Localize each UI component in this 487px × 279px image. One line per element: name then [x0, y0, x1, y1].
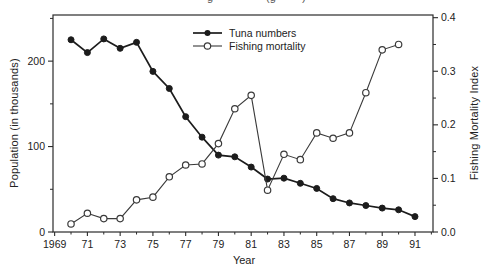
- x-tick-label: 91: [409, 238, 421, 250]
- fishing-point: [101, 215, 107, 221]
- x-tick-label: 89: [376, 238, 388, 250]
- x-tick-label: 71: [82, 238, 94, 250]
- fishing-point: [68, 221, 74, 227]
- fishing-point: [281, 151, 287, 157]
- tuna-point: [68, 37, 74, 43]
- fishing-point: [150, 194, 156, 200]
- x-tick-label: 83: [278, 238, 290, 250]
- tuna-point: [330, 196, 336, 202]
- left-axis-title: Population (in thousands): [8, 13, 20, 233]
- legend-label: Tuna numbers: [229, 27, 296, 39]
- left-tick-label: 200: [27, 55, 45, 67]
- fishing-point: [330, 135, 336, 141]
- fishing-point: [379, 47, 385, 53]
- x-tick-label: 81: [245, 238, 257, 250]
- fishing-point: [166, 174, 172, 180]
- fishing-point: [297, 156, 303, 162]
- tuna-point: [412, 214, 418, 220]
- right-tick-label: 0.4: [441, 11, 456, 23]
- left-tick-label: 0: [39, 226, 45, 238]
- tuna-point: [215, 152, 221, 158]
- tuna-point: [166, 85, 172, 91]
- legend-label: Fishing mortality: [229, 40, 306, 52]
- tuna-point: [314, 185, 320, 191]
- x-tick-label: 75: [147, 238, 159, 250]
- legend-open-circle-icon: [204, 43, 210, 49]
- fishing-point: [232, 106, 238, 112]
- clipped-caption-fragment: g(g): [0, 0, 487, 5]
- tuna-point: [183, 114, 189, 120]
- figure: g(g) Population (in thousands) Fishing M…: [0, 0, 487, 279]
- caption-fragment-text: (g: [266, 0, 276, 3]
- fishing-point: [346, 130, 352, 136]
- left-tick-label: 100: [27, 140, 45, 152]
- tuna-point: [297, 180, 303, 186]
- fishing-point: [248, 92, 254, 98]
- x-axis-title: Year: [144, 254, 344, 266]
- legend-filled-circle-icon: [205, 30, 211, 36]
- tuna-point: [150, 68, 156, 74]
- tuna-point: [248, 164, 254, 170]
- right-tick-label: 0.3: [441, 65, 456, 77]
- x-tick-label: 79: [213, 238, 225, 250]
- fishing-point: [199, 161, 205, 167]
- fishing-point: [363, 89, 369, 95]
- tuna-point: [84, 50, 90, 56]
- tuna-point: [101, 36, 107, 42]
- fishing-point: [264, 187, 270, 193]
- tuna-point: [117, 45, 123, 51]
- x-tick-label: 87: [344, 238, 356, 250]
- caption-fragment-text: g: [207, 0, 213, 3]
- right-tick-label: 0.1: [441, 172, 456, 184]
- fishing-point: [314, 130, 320, 136]
- tuna-point: [281, 175, 287, 181]
- tuna-point: [346, 200, 352, 206]
- tuna-point: [396, 207, 402, 213]
- right-axis-title: Fishing Mortality Index: [468, 13, 480, 233]
- tuna-point: [199, 134, 205, 140]
- fishing-point: [182, 162, 188, 168]
- x-tick-label: 73: [114, 238, 126, 250]
- x-tick-label: 85: [311, 238, 323, 250]
- right-tick-label: 0.2: [441, 118, 456, 130]
- tuna-point: [134, 39, 140, 45]
- tuna-point: [363, 203, 369, 209]
- right-tick-label: 0.0: [441, 226, 456, 238]
- fishing-point: [395, 41, 401, 47]
- fishing-point: [84, 210, 90, 216]
- caption-fragment-text: ): [302, 0, 306, 3]
- line-chart: 01002000.00.10.20.30.4196971737577798183…: [0, 0, 487, 279]
- fishing-point: [117, 215, 123, 221]
- fishing-point: [215, 140, 221, 146]
- series-line-tuna: [71, 39, 415, 217]
- x-tick-label: 77: [180, 238, 192, 250]
- x-tick-label: 1969: [43, 238, 67, 250]
- tuna-point: [232, 154, 238, 160]
- tuna-point: [379, 205, 385, 211]
- fishing-point: [133, 197, 139, 203]
